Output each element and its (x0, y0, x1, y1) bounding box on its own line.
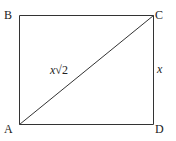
diagonal-length-label: x√2 (49, 63, 68, 77)
vertex-label-B: B (4, 8, 12, 22)
rectangle-diagram: B C A D x√2 x (0, 0, 176, 141)
rectangle-edges (20, 16, 154, 125)
vertex-label-D: D (155, 122, 164, 136)
diagonal-radical: √2 (55, 63, 68, 77)
vertex-label-C: C (155, 8, 163, 22)
diagonal-AC (20, 16, 154, 125)
vertex-label-A: A (4, 122, 13, 136)
side-CD-length-label: x (156, 62, 163, 76)
